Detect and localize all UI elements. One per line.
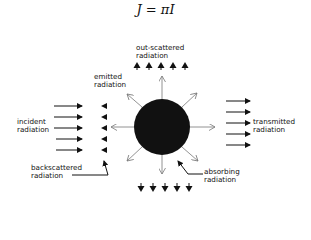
incident-label: incident radiation	[17, 118, 49, 133]
absorbing-label: absorbing radiation	[204, 168, 240, 183]
backscattered-arrows	[101, 103, 107, 153]
emitted-label: emitted radiation	[94, 73, 126, 88]
out-scattered-label: out-scattered radiation	[136, 44, 184, 59]
transmitted-label: transmitted radiation	[253, 118, 295, 133]
transmitted-arrows	[226, 101, 250, 145]
absorbing-particle	[134, 99, 190, 155]
out-scattered-arrows	[134, 62, 189, 70]
backscattered-label: backscattered radiation	[31, 164, 82, 179]
down-scattered-arrows	[138, 183, 193, 192]
leader-lines	[72, 161, 203, 175]
incident-arrows	[54, 106, 82, 150]
